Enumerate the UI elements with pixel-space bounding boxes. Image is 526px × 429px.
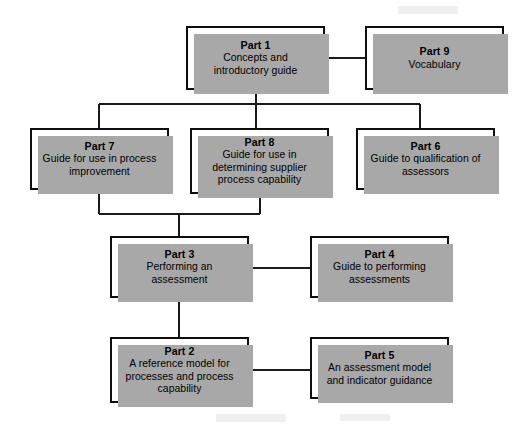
paper-texture-1 [398,6,458,14]
node-part2-description: A reference model for processes and proc… [121,358,239,395]
node-part6-description: Guide to qualification of assessors [366,153,486,178]
paper-texture-3 [340,414,390,421]
node-part3-description: Performing an assessment [142,261,218,286]
node-part3-title: Part 3 [164,248,194,261]
node-part7-title: Part 7 [84,140,114,153]
node-part4-description: Guide to performing assessments [328,261,431,286]
node-part8[interactable]: Part 8 Guide for use in determining supp… [190,128,329,194]
node-part2[interactable]: Part 2 A reference model for processes a… [110,337,249,403]
node-part9[interactable]: Part 9 Vocabulary [365,26,504,90]
node-part5-description: An assessment model and indicator guidan… [322,362,438,387]
node-part6-title: Part 6 [410,140,440,153]
node-part2-title: Part 2 [164,345,194,358]
node-part3[interactable]: Part 3 Performing an assessment [110,236,249,298]
node-part4[interactable]: Part 4 Guide to performing assessments [310,236,449,298]
node-part5-title: Part 5 [364,349,394,362]
node-part7-description: Guide for use in process improvement [38,153,162,178]
node-part1[interactable]: Part 1 Concepts and introductory guide [186,26,325,90]
node-part1-title: Part 1 [240,39,270,52]
diagram-canvas: Part 1 Concepts and introductory guide P… [0,0,526,429]
node-part8-title: Part 8 [244,136,274,149]
node-part8-description: Guide for use in determining supplier pr… [207,149,312,186]
node-part9-description: Vocabulary [404,59,466,71]
node-part4-title: Part 4 [364,248,394,261]
paper-texture-2 [216,414,286,422]
node-part1-description: Concepts and introductory guide [209,52,303,77]
node-part7[interactable]: Part 7 Guide for use in process improvem… [30,128,169,190]
node-part6[interactable]: Part 6 Guide to qualification of assesso… [356,128,495,190]
node-part9-title: Part 9 [419,45,449,58]
node-part5[interactable]: Part 5 An assessment model and indicator… [310,337,449,399]
